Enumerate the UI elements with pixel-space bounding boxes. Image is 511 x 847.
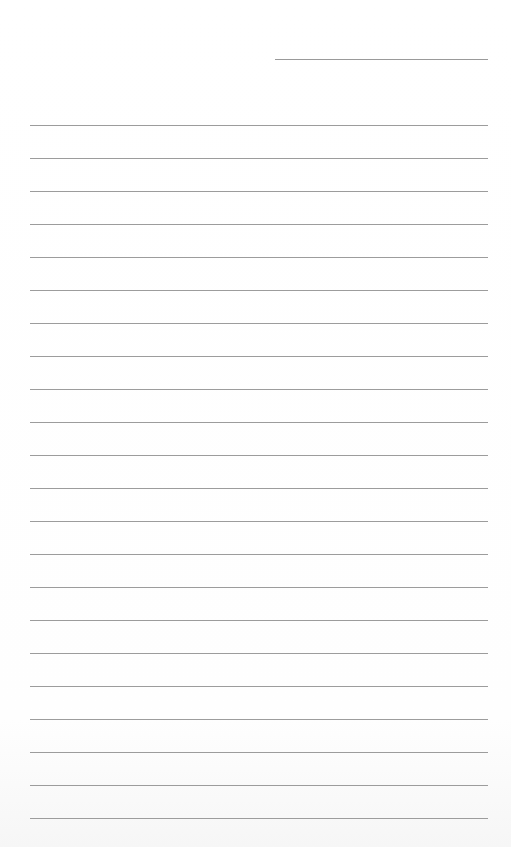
ruled-line: [30, 752, 488, 753]
ruled-line: [30, 785, 488, 786]
ruled-line: [30, 257, 488, 258]
ruled-line: [30, 158, 488, 159]
ruled-line: [30, 554, 488, 555]
ruled-line: [30, 719, 488, 720]
ruled-line: [30, 422, 488, 423]
ruled-line: [30, 455, 488, 456]
ruled-line: [30, 686, 488, 687]
ruled-line: [30, 587, 488, 588]
ruled-line: [30, 818, 488, 819]
ruled-line: [30, 620, 488, 621]
lined-paper-sheet: [0, 0, 511, 847]
ruled-line: [30, 224, 488, 225]
ruled-line: [30, 125, 488, 126]
ruled-line: [30, 323, 488, 324]
ruled-line: [30, 653, 488, 654]
ruled-line: [30, 488, 488, 489]
ruled-line: [30, 389, 488, 390]
ruled-line: [30, 191, 488, 192]
header-date-line: [275, 59, 488, 60]
ruled-line: [30, 521, 488, 522]
ruled-line: [30, 356, 488, 357]
ruled-line: [30, 290, 488, 291]
